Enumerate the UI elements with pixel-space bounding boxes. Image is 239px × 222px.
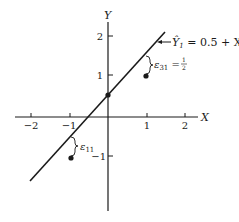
brace-icon	[146, 56, 153, 74]
brace-icon	[71, 137, 78, 156]
x-axis-label: X	[200, 111, 210, 124]
residual-label-e31: ε31 =	[154, 59, 180, 72]
y-axis-label: Y	[104, 9, 113, 22]
x-tick-label: 1	[144, 120, 150, 131]
residual-frac-num: 1	[182, 56, 186, 63]
x-tick-label: −2	[24, 120, 39, 131]
y-tick-label: 2	[97, 31, 103, 42]
x-tick-label: 2	[182, 120, 188, 131]
data-point	[105, 92, 110, 97]
arrow-icon	[157, 40, 171, 44]
y-tick-label: 1	[97, 70, 103, 81]
residual-label-e11: ε11	[80, 141, 94, 154]
equation-label: Ŷ1 = 0.5 + X	[172, 35, 239, 50]
regression-diagram: −2 −1 1 2 2 1 −1 X Y Ŷ1 = 0.5 + X ε31 = …	[0, 0, 239, 222]
residual-frac-den: 2	[182, 64, 186, 71]
x-tick-label: −1	[62, 120, 77, 131]
